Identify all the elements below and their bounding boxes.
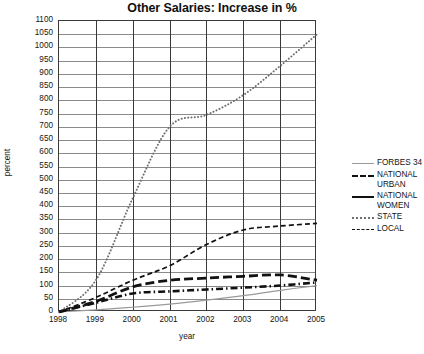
legend-swatch-icon — [352, 217, 374, 219]
plot-area — [58, 20, 316, 311]
legend-item[interactable]: NATIONAL WOMEN — [352, 191, 424, 210]
legend-item[interactable]: STATE — [352, 212, 424, 222]
chart-legend: FORBES 34NATIONAL URBANNATIONAL WOMENSTA… — [352, 158, 424, 236]
legend-label: NATIONAL WOMEN — [377, 191, 424, 210]
x-tick-label: 2003 — [222, 316, 262, 324]
legend-swatch-icon — [352, 163, 374, 164]
y-axis-title: percent — [3, 138, 12, 188]
x-tick-label: 2005 — [296, 316, 336, 324]
legend-label: FORBES 34 — [377, 158, 424, 168]
legend-label: LOCAL — [377, 224, 424, 234]
series-line-state — [59, 34, 317, 312]
x-axis-title: year — [58, 332, 316, 341]
legend-label: NATIONAL URBAN — [377, 170, 424, 189]
series-layer — [59, 21, 317, 312]
x-tick-label: 1998 — [38, 316, 78, 324]
x-tick-label: 2000 — [112, 316, 152, 324]
x-tick-label: 2004 — [259, 316, 299, 324]
legend-swatch-icon — [352, 175, 374, 177]
legend-label: STATE — [377, 212, 424, 222]
x-tick-label: 2002 — [185, 316, 225, 324]
series-line-national-women — [59, 275, 317, 312]
x-tick-label: 2001 — [149, 316, 189, 324]
legend-swatch-icon — [352, 196, 374, 198]
legend-item[interactable]: FORBES 34 — [352, 158, 424, 168]
legend-item[interactable]: NATIONAL URBAN — [352, 170, 424, 189]
x-tick-label: 1999 — [75, 316, 115, 324]
legend-swatch-icon — [352, 229, 374, 230]
chart-root: Other Salaries: Increase in % 0501001502… — [0, 0, 424, 354]
legend-item[interactable]: LOCAL — [352, 224, 424, 234]
series-line-local — [59, 223, 317, 312]
